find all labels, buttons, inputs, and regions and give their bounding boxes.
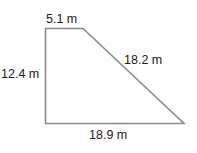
bottom-side-label: 18.9 m (89, 129, 127, 142)
slant-side-label: 18.2 m (124, 54, 162, 67)
trapezoid-diagram: 5.1 m 12.4 m 18.2 m 18.9 m (0, 0, 197, 153)
left-side-label: 12.4 m (1, 68, 39, 81)
top-side-label: 5.1 m (46, 13, 77, 26)
trapezoid-outline (46, 29, 185, 124)
